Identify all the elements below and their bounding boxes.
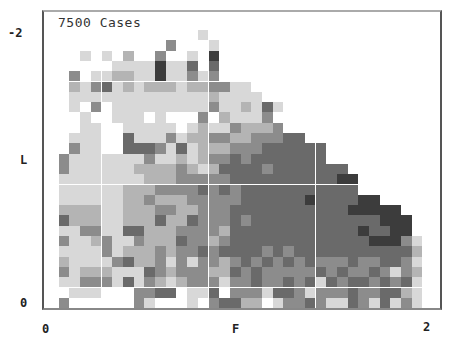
heatmap-cell [166, 174, 177, 184]
heatmap-cell [219, 185, 230, 195]
heatmap-cell [123, 267, 134, 277]
heatmap-cell [187, 288, 198, 298]
heatmap-cell [348, 246, 359, 256]
heatmap-cell [251, 154, 262, 164]
heatmap-cell [262, 257, 273, 267]
heatmap-cell [273, 298, 284, 308]
heatmap-cell [380, 226, 391, 236]
heatmap-cell [326, 174, 337, 184]
heatmap-cell [187, 246, 198, 256]
heatmap-cell [144, 133, 155, 143]
heatmap-cell [80, 257, 91, 267]
heatmap-cell [283, 226, 294, 236]
heatmap-cell [144, 288, 155, 298]
heatmap-cell [91, 133, 102, 143]
heatmap-cell [305, 154, 316, 164]
heatmap-cell [230, 185, 241, 195]
heatmap-cell [273, 154, 284, 164]
heatmap-cell [80, 92, 91, 102]
heatmap-cell [80, 164, 91, 174]
heatmap-cell [155, 246, 166, 256]
heatmap-cell [305, 288, 316, 298]
heatmap-cell [209, 236, 220, 246]
heatmap-cell [112, 215, 123, 225]
heatmap-cell [251, 236, 262, 246]
heatmap-cell [187, 102, 198, 112]
heatmap-cell [219, 174, 230, 184]
heatmap-cell [273, 215, 284, 225]
heatmap-cell [155, 51, 166, 61]
heatmap-cell [369, 195, 380, 205]
heatmap-cell [348, 174, 359, 184]
heatmap-cell [59, 164, 70, 174]
heatmap-cell [134, 246, 145, 256]
heatmap-cell [123, 226, 134, 236]
heatmap-cell [380, 298, 391, 308]
heatmap-cell [273, 246, 284, 256]
heatmap-cell [294, 288, 305, 298]
heatmap-cell [390, 215, 401, 225]
heatmap-cell [91, 102, 102, 112]
heatmap-cell [251, 267, 262, 277]
heatmap-cell [401, 246, 412, 256]
heatmap-cell [59, 185, 70, 195]
heatmap-cell [358, 236, 369, 246]
heatmap-cell [91, 236, 102, 246]
heatmap-cell [198, 143, 209, 153]
heatmap-cell [209, 40, 220, 50]
heatmap-cell [348, 195, 359, 205]
heatmap-cell [134, 102, 145, 112]
heatmap-cell [176, 82, 187, 92]
heatmap-cell [198, 82, 209, 92]
heatmap-cell [262, 246, 273, 256]
heatmap-cell [262, 267, 273, 277]
heatmap-cell [316, 174, 327, 184]
heatmap-cell [144, 267, 155, 277]
heatmap-cell [155, 257, 166, 267]
heatmap-cell [241, 164, 252, 174]
heatmap-cell [123, 112, 134, 122]
heatmap-cell [123, 82, 134, 92]
heatmap-cell [412, 288, 423, 298]
heatmap-cell [326, 257, 337, 267]
heatmap-cell [80, 267, 91, 277]
heatmap-cell [241, 257, 252, 267]
heatmap-cell [187, 71, 198, 81]
heatmap-cell [262, 288, 273, 298]
heatmap-cell [380, 246, 391, 256]
heatmap-cell [69, 288, 80, 298]
heatmap-cell [337, 288, 348, 298]
heatmap-cell [144, 185, 155, 195]
heatmap-cell [155, 226, 166, 236]
heatmap-cell [294, 226, 305, 236]
heatmap-cell [390, 236, 401, 246]
heatmap-cell [326, 298, 337, 308]
heatmap-cell [134, 164, 145, 174]
heatmap-cell [134, 92, 145, 102]
x-tick-left: 0 [42, 322, 49, 336]
heatmap-cell [134, 277, 145, 287]
heatmap-cell [305, 226, 316, 236]
heatmap-cell [209, 185, 220, 195]
heatmap-cell [251, 277, 262, 287]
heatmap-cell [176, 154, 187, 164]
heatmap-cell [241, 215, 252, 225]
heatmap-cell [155, 143, 166, 153]
heatmap-grid [48, 30, 443, 307]
heatmap-cell [123, 133, 134, 143]
heatmap-cell [187, 51, 198, 61]
heatmap-cell [80, 154, 91, 164]
heatmap-cell [155, 205, 166, 215]
heatmap-cell [123, 236, 134, 246]
heatmap-cell [401, 215, 412, 225]
heatmap-cell [176, 164, 187, 174]
heatmap-cell [412, 236, 423, 246]
heatmap-cell [348, 226, 359, 236]
heatmap-cell [273, 236, 284, 246]
heatmap-cell [305, 205, 316, 215]
heatmap-cell [305, 143, 316, 153]
heatmap-cell [123, 123, 134, 133]
heatmap-cell [401, 277, 412, 287]
heatmap-cell [144, 246, 155, 256]
heatmap-cell [91, 195, 102, 205]
